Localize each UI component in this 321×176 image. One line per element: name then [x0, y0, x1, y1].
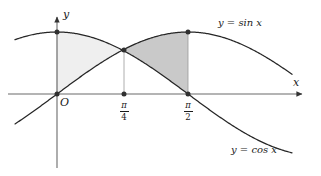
tick-numerator: π [177, 101, 199, 110]
shaded-regions-group [57, 32, 188, 94]
figure-container: y x O y = sin x y = cos x π 4 π 2 [0, 0, 321, 176]
tick-numerator: π [113, 101, 135, 110]
origin-label: O [60, 97, 69, 108]
x-tick-label-pi-over-4: π 4 [113, 101, 135, 121]
x-tick-label-pi-over-2: π 2 [177, 101, 199, 121]
point-cos-at-zero [55, 30, 60, 35]
sin-curve-label: y = sin x [218, 18, 262, 28]
region-zero-to-pi-over-4 [57, 32, 123, 94]
point-tick-pi-over-2 [186, 92, 191, 97]
point-tick-pi-over-4 [122, 92, 127, 97]
tick-denominator: 2 [177, 112, 199, 121]
y-axis-label: y [63, 9, 69, 20]
point-sin-peak [186, 30, 191, 35]
point-intersection [122, 48, 127, 53]
tick-denominator: 4 [113, 112, 135, 121]
region-pi-over-4-to-pi-over-2 [123, 32, 189, 94]
cos-curve-label: y = cos x [231, 145, 277, 155]
x-axis-label: x [293, 77, 299, 88]
point-origin [55, 92, 60, 97]
